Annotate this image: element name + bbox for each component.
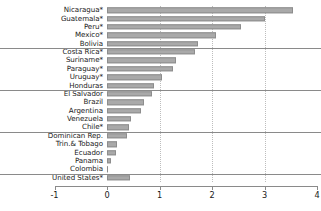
bar (107, 158, 111, 163)
x-axis-tick-label: 2 (209, 191, 214, 199)
group-separator (0, 132, 321, 133)
x-axis-tick (317, 186, 318, 190)
category-label: United States* (52, 174, 103, 181)
bar-row (107, 174, 317, 182)
group-separator (0, 48, 321, 49)
category-label: Venezuela (67, 116, 103, 123)
bar (107, 41, 198, 46)
bar (107, 141, 117, 146)
bar (107, 91, 152, 96)
category-label: Ecuador (74, 149, 103, 156)
category-label: Nicaragua* (64, 7, 103, 14)
x-axis-tick-label: -1 (50, 191, 58, 199)
bar (107, 49, 195, 54)
category-label: Peru* (84, 23, 103, 30)
bar (107, 74, 162, 79)
bar-row (107, 115, 317, 123)
category-label: Costa Rica* (62, 49, 103, 56)
category-label: Chile* (82, 124, 103, 131)
bar-row (107, 14, 317, 22)
bar (107, 66, 173, 71)
x-axis-tick-label: 4 (314, 191, 319, 199)
bar-chart: Nicaragua*Guatemala*Peru*Mexico*BoliviaC… (0, 0, 321, 211)
bar-row (107, 140, 317, 148)
bar-row (107, 157, 317, 165)
bar-row (107, 132, 317, 140)
x-axis-tick (107, 186, 108, 190)
x-axis-line (55, 186, 317, 187)
category-label-row: United States* (0, 174, 103, 182)
bar-row (107, 90, 317, 98)
bar (107, 58, 176, 63)
category-label: Guatemala* (61, 15, 103, 22)
category-label: El Salvador (64, 90, 103, 97)
bar-row (107, 73, 317, 81)
group-separator (0, 174, 321, 175)
x-axis-tick-label: 3 (262, 191, 267, 199)
x-axis-tick-label: 1 (157, 191, 162, 199)
category-label: Brazil (84, 99, 104, 106)
bar-row (107, 56, 317, 64)
category-axis-labels: Nicaragua*Guatemala*Peru*Mexico*BoliviaC… (0, 6, 103, 182)
bar (107, 24, 241, 29)
bar-row (107, 48, 317, 56)
bar-row (107, 81, 317, 89)
bar-row (107, 123, 317, 131)
bar-row (107, 165, 317, 173)
x-axis-tick (265, 186, 266, 190)
bar-row (107, 6, 317, 14)
bar-row (107, 31, 317, 39)
bar-row (107, 107, 317, 115)
bar (107, 125, 129, 130)
category-label: Colombia (70, 166, 103, 173)
bar-row (107, 148, 317, 156)
category-label: Panama (75, 157, 103, 164)
category-label: Trin.& Tobago (56, 141, 103, 148)
category-label: Argentina (69, 107, 103, 114)
bars-layer (107, 6, 317, 182)
bar (107, 167, 108, 172)
x-axis-tick-label: 0 (104, 191, 109, 199)
group-separator (0, 90, 321, 91)
bar-row (107, 65, 317, 73)
bar (107, 133, 127, 138)
category-label: Paraguay* (67, 65, 103, 72)
category-label: Uruguay* (70, 74, 103, 81)
category-label: Suriname* (66, 57, 103, 64)
category-label: Mexico* (75, 32, 103, 39)
bar (107, 33, 216, 38)
x-axis-tick (55, 186, 56, 190)
category-label: Bolivia (80, 40, 103, 47)
category-label: Dominican Rep. (48, 132, 103, 139)
bar (107, 16, 265, 21)
x-axis-tick (160, 186, 161, 190)
bar (107, 83, 154, 88)
plot-area (107, 6, 317, 182)
bar-row (107, 98, 317, 106)
bar (107, 150, 116, 155)
x-axis-tick (212, 186, 213, 190)
bar-row (107, 40, 317, 48)
bar (107, 116, 131, 121)
bar (107, 175, 130, 180)
bar-row (107, 23, 317, 31)
bar (107, 108, 141, 113)
category-label: Honduras (69, 82, 103, 89)
bar (107, 7, 293, 12)
bar (107, 100, 144, 105)
